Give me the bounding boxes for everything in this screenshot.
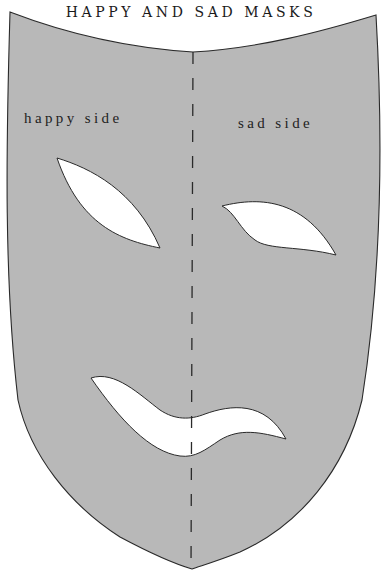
- diagram-title: HAPPY AND SAD MASKS: [0, 4, 382, 20]
- masks-diagram: HAPPY AND SAD MASKS happy side sad side: [0, 0, 382, 575]
- sad-side-label: sad side: [238, 115, 313, 132]
- mask-drawing: [0, 0, 382, 575]
- mask-outline: [7, 12, 380, 569]
- happy-side-label: happy side: [24, 110, 123, 127]
